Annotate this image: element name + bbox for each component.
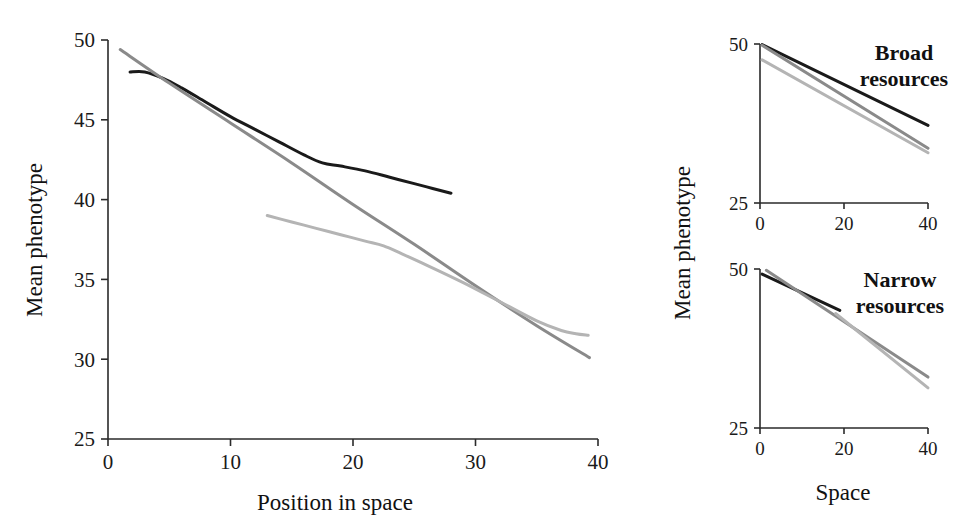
series-line-light-gray-line	[836, 314, 928, 388]
y-tick-label: 50	[74, 28, 95, 52]
main-ylabel: Mean phenotype	[22, 163, 47, 317]
y-tick-label: 50	[729, 259, 748, 280]
panel-narrow: 255002040Narrowresources	[729, 259, 945, 459]
series-group-main	[120, 50, 589, 358]
x-tick-label: 40	[919, 438, 938, 459]
broad-annotation-line1: Broad	[875, 40, 933, 65]
broad-annotation-line2: resources	[860, 66, 949, 91]
y-tick-label: 25	[729, 418, 748, 439]
x-tick-label: 20	[343, 450, 364, 474]
panel-main: 253035404550010203040Position in spaceMe…	[22, 28, 609, 515]
y-tick-label: 40	[74, 188, 95, 212]
y-tick-label: 25	[729, 193, 748, 214]
y-tick-label: 45	[74, 108, 95, 132]
y-tick-label: 50	[729, 34, 748, 55]
x-tick-label: 0	[103, 450, 114, 474]
x-tick-label: 40	[919, 213, 938, 234]
x-tick-label: 10	[220, 450, 241, 474]
series-line-light-gray-curve	[267, 216, 588, 336]
x-tick-label: 40	[588, 450, 609, 474]
right-column-xlabel: Space	[816, 480, 871, 505]
x-tick-label: 0	[755, 438, 765, 459]
y-tick-label: 25	[74, 427, 95, 451]
narrow-annotation-line2: resources	[856, 293, 945, 318]
y-tick-label: 35	[74, 268, 95, 292]
y-tick-label: 30	[74, 348, 95, 372]
x-tick-label: 0	[755, 213, 765, 234]
x-tick-label: 30	[465, 450, 486, 474]
axes-main: 253035404550010203040	[74, 28, 609, 474]
x-tick-label: 20	[835, 438, 854, 459]
panel-broad: 255002040Broadresources	[729, 34, 949, 234]
main-xlabel: Position in space	[257, 490, 413, 515]
narrow-annotation-line1: Narrow	[864, 267, 937, 292]
axis-spine	[108, 40, 598, 439]
right-column-ylabel: Mean phenotype	[670, 166, 695, 320]
figure-root: 253035404550010203040Position in spaceMe…	[0, 0, 978, 526]
figure-svg: 253035404550010203040Position in spaceMe…	[0, 0, 978, 526]
x-tick-label: 20	[835, 213, 854, 234]
